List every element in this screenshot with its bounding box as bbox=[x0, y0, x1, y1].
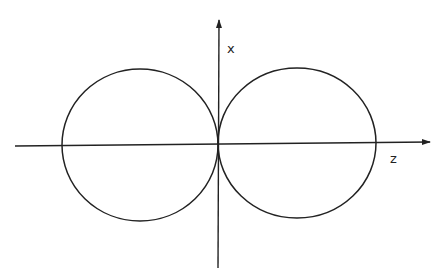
x-axis-label: x bbox=[227, 41, 235, 56]
z-axis-label: z bbox=[390, 151, 397, 166]
z-axis bbox=[15, 142, 430, 146]
dipole-pattern-diagram: x z bbox=[0, 0, 446, 278]
